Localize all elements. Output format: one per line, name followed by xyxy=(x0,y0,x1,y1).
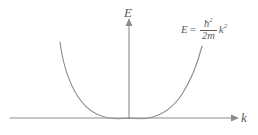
equation-annotation: E = ħ2 2m k2 xyxy=(181,17,227,42)
y-axis-label: E xyxy=(124,6,132,19)
parabola-curve xyxy=(60,42,202,119)
numerator-exponent: 2 xyxy=(209,16,213,24)
energy-dispersion-figure: E k E = ħ2 2m k2 xyxy=(0,0,258,135)
equation-denominator: 2m xyxy=(200,31,217,42)
equation-lhs: E xyxy=(181,24,188,35)
equation-tail-exponent: 2 xyxy=(224,22,228,30)
x-axis-label: k xyxy=(241,111,247,124)
equation-numerator: ħ2 xyxy=(202,17,215,29)
equation-relation: = xyxy=(190,24,196,35)
x-axis-arrow-icon xyxy=(231,115,239,122)
equation-fraction: ħ2 2m xyxy=(200,17,217,42)
equation-tail: k2 xyxy=(219,23,227,35)
